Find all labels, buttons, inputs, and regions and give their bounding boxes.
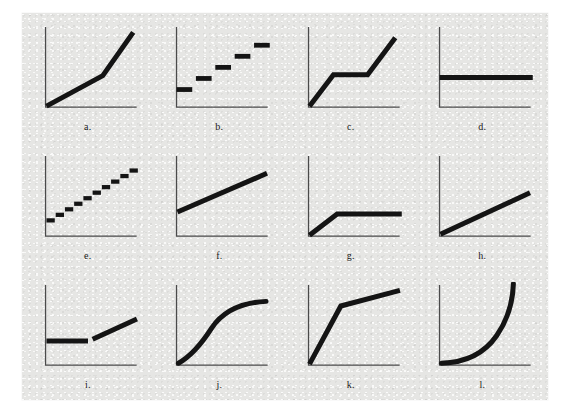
- plot-i: [36, 282, 140, 378]
- caption-e: e.: [84, 251, 91, 261]
- plot-grid: a. b.: [22, 13, 548, 400]
- plot-f: [167, 153, 271, 249]
- data-series-h: [441, 192, 531, 234]
- caption-d: d.: [478, 122, 486, 132]
- plot-j: [167, 282, 271, 378]
- plot-cell-a: a.: [22, 13, 154, 142]
- caption-j: j.: [216, 380, 222, 390]
- axes-l: [440, 285, 530, 364]
- plot-cell-e: e.: [22, 142, 154, 271]
- figure-panel: a. b.: [22, 13, 548, 400]
- axes-f: [177, 156, 267, 235]
- plot-cell-i: i.: [22, 271, 154, 400]
- data-series-b: [177, 45, 270, 89]
- plot-a: [36, 24, 140, 120]
- plot-g: [299, 153, 403, 249]
- axes-a: [45, 27, 135, 106]
- plot-cell-l: l.: [417, 271, 549, 400]
- data-series-g: [309, 213, 401, 234]
- caption-a: a.: [84, 122, 91, 132]
- data-series-a: [46, 32, 133, 106]
- plot-cell-k: k.: [285, 271, 417, 400]
- data-series-i: [46, 318, 136, 340]
- plot-h: [430, 153, 534, 249]
- data-series-e: [46, 170, 137, 220]
- plot-c: [299, 24, 403, 120]
- caption-h: h.: [478, 251, 486, 261]
- data-series-f: [178, 173, 268, 212]
- plot-cell-j: j.: [154, 271, 286, 400]
- figure-sheet: a. b.: [0, 0, 570, 413]
- data-series-l: [442, 283, 514, 362]
- plot-cell-b: b.: [154, 13, 286, 142]
- plot-k: [299, 282, 403, 378]
- plot-d: [430, 24, 534, 120]
- axes-c: [308, 27, 398, 106]
- plot-cell-f: f.: [154, 142, 286, 271]
- data-series-j: [179, 301, 267, 363]
- plot-cell-h: h.: [417, 142, 549, 271]
- data-series-c: [309, 37, 395, 105]
- data-series-k: [309, 290, 399, 364]
- caption-f: f.: [216, 251, 222, 261]
- plot-l: [430, 282, 534, 378]
- caption-i: i.: [85, 380, 91, 390]
- plot-cell-g: g.: [285, 142, 417, 271]
- axes-k: [308, 285, 398, 364]
- plot-e: [36, 153, 140, 249]
- caption-l: l.: [479, 380, 485, 390]
- plot-cell-d: d.: [417, 13, 549, 142]
- caption-b: b.: [215, 122, 223, 132]
- axes-d: [440, 27, 530, 106]
- plot-b: [167, 24, 271, 120]
- caption-g: g.: [347, 251, 355, 261]
- plot-cell-c: c.: [285, 13, 417, 142]
- caption-c: c.: [347, 122, 354, 132]
- caption-k: k.: [347, 380, 355, 390]
